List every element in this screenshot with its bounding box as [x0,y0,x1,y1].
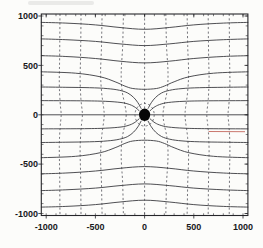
x-tick-label: -500 [86,222,104,232]
y-tick-label: 1000 [18,11,38,21]
y-tick-label: 0 [33,110,38,120]
x-tick-label: 500 [186,222,201,232]
x-tick-label: -1000 [35,222,58,232]
x-tick-label: 0 [142,222,147,232]
field-line-plot: 10005000-500-1000-1000-50005001000 [0,0,263,248]
x-tick-label: 1000 [233,222,253,232]
y-tick-label: -1000 [15,209,38,219]
figure-canvas: 10005000-500-1000-1000-50005001000 [0,0,263,248]
scan-artifact-text [28,1,94,5]
y-tick-label: -500 [20,159,38,169]
central-mass-dot [139,109,150,121]
y-tick-label: 500 [23,61,38,71]
